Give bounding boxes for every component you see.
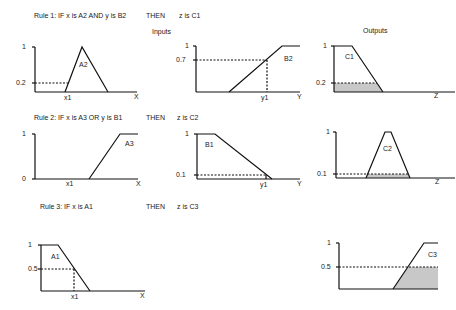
rule1-x-graph — [32, 47, 137, 92]
axis-label-x: X — [140, 292, 145, 299]
input-label-y1: y1 — [261, 94, 268, 101]
input-label-y1: y1 — [260, 181, 267, 188]
axis-label-x: X — [136, 180, 141, 187]
set-label-a1: A1 — [51, 253, 60, 260]
input-label-x1: x1 — [71, 293, 78, 300]
tick-label: 0.7 — [176, 56, 186, 63]
tick-label: 1 — [185, 130, 189, 137]
tick-label: 0.1 — [176, 171, 186, 178]
tick-label: 0 — [22, 175, 26, 182]
axis-label-z: Z — [435, 178, 439, 185]
set-label-c1: C1 — [345, 53, 354, 60]
tick-label: 0.2 — [16, 79, 26, 86]
axis-label-z: Z — [434, 92, 438, 99]
axis-label-y: Y — [297, 93, 302, 100]
rule3-z-graph — [336, 243, 438, 289]
axis-label-x: X — [134, 93, 139, 100]
tick-label: 0.5 — [321, 263, 331, 270]
set-label-c3: C3 — [428, 251, 437, 258]
tick-label: 0.1 — [317, 170, 327, 177]
tick-label: 1 — [28, 241, 32, 248]
input-label-x1: x1 — [64, 94, 71, 101]
tick-label: 0.5 — [28, 265, 38, 272]
rule1-y-graph — [193, 46, 300, 92]
tick-label: 0.2 — [316, 79, 326, 86]
tick-label: 1 — [326, 128, 330, 135]
fuzzy-rules-diagram — [0, 0, 456, 310]
tick-label: 1 — [22, 43, 26, 50]
rule3-x-graph — [38, 245, 145, 291]
tick-label: 1 — [185, 42, 189, 49]
set-label-a3: A3 — [125, 140, 134, 147]
input-label-x1: x1 — [66, 180, 73, 187]
rule2-x-graph — [32, 134, 138, 179]
tick-label: 1 — [22, 130, 26, 137]
set-label-b1: B1 — [205, 141, 214, 148]
set-label-a2: A2 — [79, 61, 88, 68]
set-label-c2: C2 — [383, 145, 392, 152]
tick-label: 1 — [323, 42, 327, 49]
tick-label: 1 — [327, 239, 331, 246]
set-label-b2: B2 — [284, 55, 293, 62]
rule2-z-graph — [333, 132, 455, 178]
axis-label-y: Y — [297, 180, 302, 187]
